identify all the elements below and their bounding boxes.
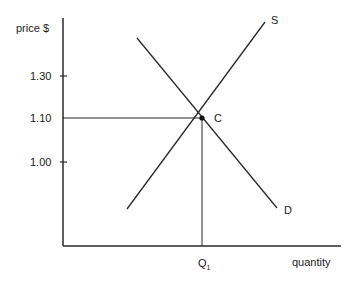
y-tick-label-1-00: 1.00 bbox=[30, 156, 51, 168]
supply-label: S bbox=[271, 14, 278, 26]
equilibrium-label: C bbox=[214, 112, 222, 124]
x-axis-label: quantity bbox=[292, 256, 331, 268]
y-tick-label-1-30: 1.30 bbox=[30, 70, 51, 82]
x-tick-label-q1: Q1 bbox=[198, 257, 210, 274]
demand-label: D bbox=[284, 204, 292, 216]
equilibrium-point bbox=[199, 115, 204, 120]
demand-curve bbox=[137, 38, 277, 208]
y-axis-label: price $ bbox=[16, 22, 49, 34]
y-tick-label-1-10: 1.10 bbox=[30, 112, 51, 124]
q-subscript: 1 bbox=[207, 264, 211, 271]
supply-demand-diagram bbox=[0, 0, 359, 284]
q-label: Q bbox=[198, 257, 207, 269]
